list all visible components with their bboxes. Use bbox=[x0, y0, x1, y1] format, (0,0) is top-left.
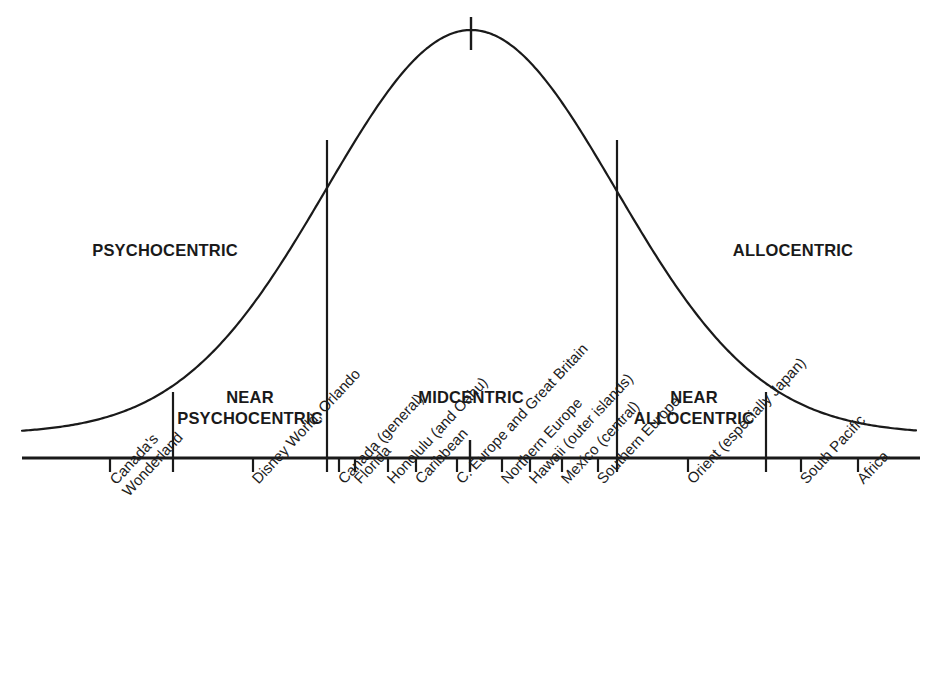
zone-label-near-psychocentric-line1: NEAR bbox=[177, 387, 323, 408]
curve-diagram bbox=[0, 0, 931, 673]
zone-label-allocentric: ALLOCENTRIC bbox=[733, 240, 853, 261]
zone-label-psychocentric-text: PSYCHOCENTRIC bbox=[92, 241, 238, 259]
zone-label-allocentric-text: ALLOCENTRIC bbox=[733, 241, 853, 259]
zone-label-near-allocentric-line1: NEAR bbox=[634, 387, 754, 408]
zone-label-psychocentric: PSYCHOCENTRIC bbox=[92, 240, 238, 261]
psychographic-curve-figure: PSYCHOCENTRIC NEAR PSYCHOCENTRIC MIDCENT… bbox=[0, 0, 931, 673]
